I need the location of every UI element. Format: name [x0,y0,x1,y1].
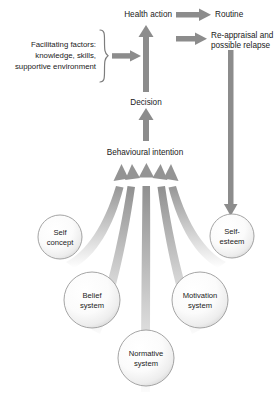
node-circle-motivation-system[interactable]: Motivation system [172,272,228,328]
node-label-belief-system-line2: system [80,301,104,310]
node-label-self-esteem-line2: esteem [220,237,245,246]
label-facilitating-line3: supportive environment [15,62,97,71]
node-circle-belief-system[interactable]: Belief system [64,272,120,328]
label-decision: Decision [130,98,162,107]
label-health-action: Health action [124,10,172,19]
node-label-self-esteem-line1: Self- [224,227,240,236]
node-label-belief-system-line1: Belief [83,291,103,300]
arrow-facilitating-to-spine [112,50,141,61]
health-action-model-diagram: Self concept Self- esteem Belief system … [0,0,279,405]
arrow-feedback-to-self-esteem [224,50,238,216]
node-circle-self-concept[interactable]: Self concept [38,215,82,259]
label-reappraisal-line1: Re-appraisal and [211,31,274,40]
node-label-normative-system-line1: Normative [129,349,164,358]
curly-brace-icon [100,30,108,82]
arrow-behavioural-to-decision [139,108,154,141]
node-label-normative-system-line2: system [134,359,158,368]
node-circle-normative-system[interactable]: Normative system [118,330,174,386]
node-label-self-concept-line1: Self [53,228,67,237]
label-behavioural-intention: Behavioural intention [107,148,184,157]
label-routine: Routine [215,10,244,19]
node-label-self-concept-line2: concept [47,238,74,247]
node-label-motivation-system-line1: Motivation [183,291,218,300]
arrow-to-reappraisal [176,33,207,45]
arrow-decision-to-health-action [139,25,154,92]
label-facilitating-line1: Facilitating factors: [31,40,96,49]
diagram-canvas: Self concept Self- esteem Belief system … [0,0,279,405]
label-facilitating-line2: knowledge, skills, [35,51,96,60]
node-label-motivation-system-line2: system [188,301,212,310]
node-circle-self-esteem[interactable]: Self- esteem [210,214,254,258]
arrow-health-action-to-routine [176,9,211,21]
label-reappraisal-line2: possible relapse [211,41,271,50]
